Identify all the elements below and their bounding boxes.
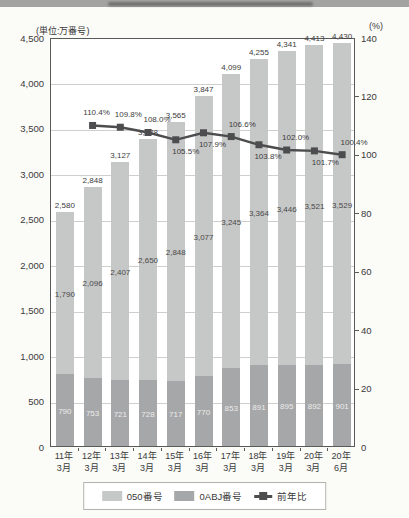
x-axis-category-label: 16年3月 [189,451,217,474]
x-axis-category-label: 13年3月 [105,451,133,474]
right-axis-tick-label: 0 [361,442,366,453]
right-axis-tick-label: 60 [361,266,372,277]
cropped-header-strip [0,0,409,7]
legend-item-0abj: 0ABJ番号 [175,489,243,503]
left-axis-tick-label: 0 [0,442,44,453]
bar-total-label: 2,580 [45,201,85,210]
legend-item-yoy: 前年比 [254,489,307,503]
bar-050-value-label: 3,529 [322,201,362,210]
yoy-line-swatch-icon [254,495,272,498]
bar-total-label: 4,099 [211,63,251,72]
right-axis-tick-label: 140 [361,33,377,44]
right-axis-tick-mark [355,330,359,331]
050-bar-swatch-icon [102,491,122,501]
left-axis-tick-label: 2,000 [0,260,44,271]
x-axis-category-label: 15年3月 [161,451,189,474]
yoy-value-label: 108.0% [132,115,182,124]
right-axis-tick-mark [355,389,359,390]
right-axis-tick-label: 100 [361,149,377,160]
x-axis-category-label: 14年3月 [133,451,161,474]
right-axis-tick-mark [355,155,359,156]
left-axis-tick-label: 2,500 [0,214,44,225]
x-axis-category-label: 11年3月 [50,451,78,474]
left-axis-tick-label: 3,000 [0,169,44,180]
x-axis-category-label: 19年3月 [272,451,300,474]
right-axis-tick-label: 80 [361,208,372,219]
yoy-value-label: 100.4% [329,138,379,147]
right-axis-unit-label: (%) [369,21,383,31]
bar-050-value-label: 1,790 [45,290,85,299]
yoy-value-label: 103.8% [243,152,293,161]
figure-page: (単位:万番号) (%) 2,5801,7907902,8482,0967533… [0,0,409,518]
bar-050-value-label: 2,848 [156,248,196,257]
x-axis-category-label: 20年6月 [327,451,355,474]
bar-total-label: 4,255 [239,48,279,57]
bar-total-label: 2,848 [73,176,113,185]
right-axis-tick-mark [355,272,359,273]
bar-050-value-label: 2,650 [128,256,168,265]
left-axis-unit-label: (単位:万番号) [36,24,90,37]
0abj-bar-swatch-icon [175,491,195,501]
x-axis-category-label: 12年3月 [78,451,106,474]
legend-item-050: 050番号 [102,489,163,503]
right-axis-tick-mark [355,96,359,97]
bar-050-value-label: 3,077 [184,233,224,242]
left-axis-tick-label: 4,500 [0,33,44,44]
bar-050-value-label: 2,096 [73,279,113,288]
x-axis-category-label: 20年3月 [300,451,328,474]
cropped-title-text-remnant [108,2,313,6]
plot-area: 2,5801,7907902,8482,0967533,1272,4077213… [50,38,355,447]
bar-050-value-label: 2,407 [100,268,140,277]
right-axis-tick-label: 20 [361,383,372,394]
chart-legend: 050番号 0ABJ番号 前年比 [83,482,327,510]
left-axis-tick-label: 1,500 [0,305,44,316]
left-axis-tick-label: 500 [0,396,44,407]
x-axis-category-label: 18年3月 [244,451,272,474]
legend-label-0abj: 0ABJ番号 [200,489,243,503]
yoy-value-label: 107.9% [188,140,238,149]
right-axis-tick-label: 120 [361,91,377,102]
legend-label-050: 050番号 [127,489,163,503]
left-axis-tick-label: 1,000 [0,351,44,362]
bar-total-label: 3,847 [184,85,224,94]
bar-total-label: 3,127 [100,151,140,160]
bar-0abj-value-label: 901 [322,402,362,411]
x-axis-category-label: 17年3月 [216,451,244,474]
yoy-marker [89,122,96,129]
right-axis-tick-label: 40 [361,325,372,336]
right-axis-tick-mark [355,213,359,214]
yoy-value-label: 101.7% [300,158,350,167]
left-axis-tick-label: 3,500 [0,123,44,134]
bar-total-label: 4,430 [322,32,362,41]
legend-label-yoy: 前年比 [277,489,307,503]
yoy-value-label: 102.0% [271,133,321,142]
yoy-value-label: 106.6% [217,120,267,129]
bar-050-value-label: 3,245 [211,218,251,227]
bar-total-label: 3,378 [128,128,168,137]
left-axis-tick-label: 4,000 [0,78,44,89]
